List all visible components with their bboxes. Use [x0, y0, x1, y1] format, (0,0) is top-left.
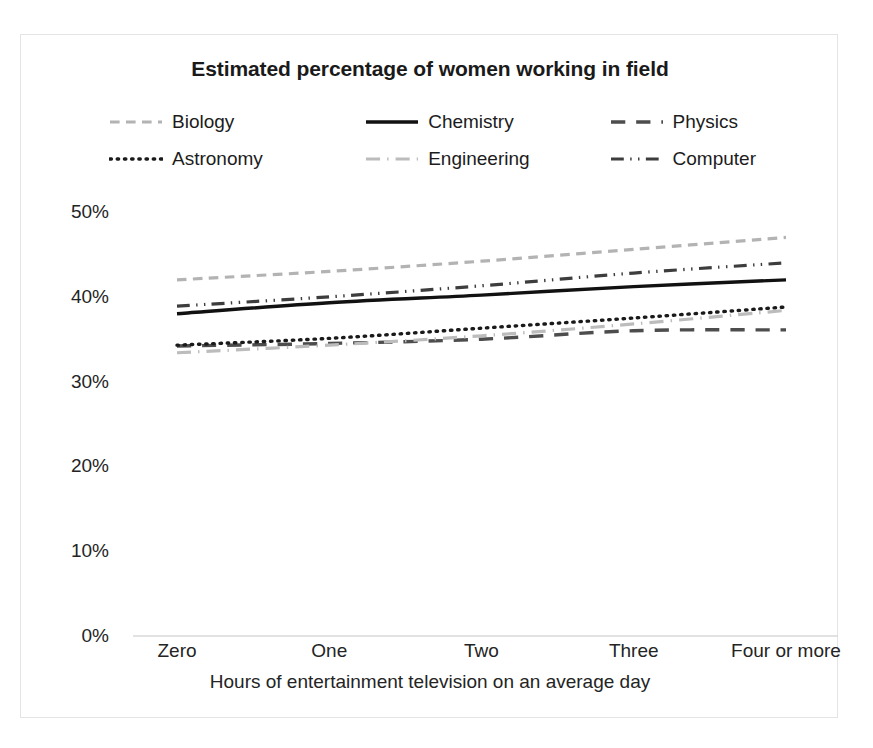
- y-tick-label: 20%: [47, 456, 109, 475]
- chart-container: Estimated percentage of women working in…: [20, 34, 838, 718]
- y-tick-label: 40%: [47, 287, 109, 306]
- series-line-biology: [177, 237, 786, 279]
- y-tick-label: 30%: [47, 372, 109, 391]
- plot-area: [21, 35, 839, 719]
- x-axis-title: Hours of entertainment television on an …: [21, 671, 839, 693]
- series-line-engineering: [177, 310, 786, 352]
- x-tick-label: Four or more: [696, 641, 873, 660]
- series-line-physics: [177, 330, 786, 346]
- y-tick-label: 10%: [47, 541, 109, 560]
- series-line-chemistry: [177, 280, 786, 314]
- y-tick-label: 50%: [47, 202, 109, 221]
